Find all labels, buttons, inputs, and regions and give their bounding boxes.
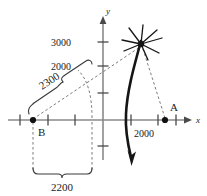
- point-a-label: A: [170, 101, 178, 113]
- point-b-marker: [30, 117, 36, 123]
- dashed-a-to-burst: [142, 46, 165, 118]
- y-axis-arrow: [100, 16, 107, 24]
- x-tick-label-2000: 2000: [134, 128, 154, 139]
- bottom-brace: [33, 168, 92, 178]
- dashed-arc: [78, 70, 92, 118]
- slant-dimension-label: 2300: [37, 69, 62, 91]
- x-axis-label: x: [195, 115, 200, 125]
- point-b-label: B: [38, 126, 45, 138]
- y-axis-label: y: [105, 6, 110, 16]
- axes-group: [8, 16, 192, 160]
- y-tick-label-3000: 3000: [51, 37, 71, 48]
- trajectory-curve: [126, 41, 141, 157]
- figure-container: y x 3000 2000 2000 B A 2300 2200: [0, 0, 207, 196]
- point-a-marker: [162, 117, 168, 123]
- burst-icon: [122, 25, 162, 60]
- trajectory-group: [126, 41, 141, 166]
- diagram-svg: y x 3000 2000 2000 B A 2300 2200: [0, 0, 207, 196]
- x-axis-arrow: [184, 117, 192, 124]
- trajectory-arrowhead: [128, 150, 137, 166]
- bottom-dimension-label: 2200: [51, 181, 74, 193]
- burst-core: [138, 41, 144, 47]
